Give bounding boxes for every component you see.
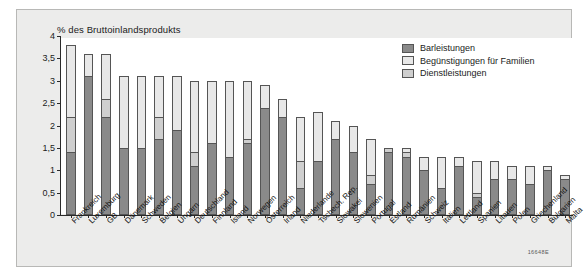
y-axis-tick-mark	[57, 58, 60, 59]
bar-segment	[331, 121, 341, 139]
bar-stack	[260, 36, 270, 215]
y-axis-tick-mark	[57, 193, 60, 194]
bar-segment	[313, 112, 323, 161]
bar-segment	[66, 117, 76, 153]
bar-segment	[296, 161, 306, 188]
bar-segment	[119, 148, 129, 215]
chart-legend: Barleistungen Begünstigungen für Familie…	[402, 43, 535, 81]
bar-segment	[225, 81, 235, 157]
bar-segment	[101, 99, 111, 117]
bar-segment	[66, 152, 76, 215]
bar-segment	[84, 76, 94, 215]
bar-segment	[260, 85, 270, 107]
bar-segment	[419, 157, 429, 170]
bar-stack	[84, 36, 94, 215]
y-axis-tick-mark	[57, 81, 60, 82]
legend-item: Begünstigungen für Familien	[402, 56, 535, 66]
bar-segment	[472, 193, 482, 197]
chart-frame: % des Bruttoinlandsprodukts 00,511,522,5…	[16, 9, 572, 267]
y-axis-line	[60, 36, 61, 216]
figure-code: 16648E	[528, 249, 549, 255]
bar-segment	[278, 99, 288, 117]
legend-swatch-barleistungen	[402, 44, 414, 53]
y-axis-tick-label: 0,5	[29, 188, 55, 198]
y-axis-tick-mark	[57, 36, 60, 37]
y-axis-title: % des Bruttoinlandsprodukts	[57, 24, 181, 35]
y-axis-tick-label: 2	[29, 121, 55, 131]
bar-segment	[172, 76, 182, 130]
y-axis-tick-mark	[57, 215, 60, 216]
bar-stack	[225, 36, 235, 215]
y-axis-tick-label: 1,5	[29, 143, 55, 153]
bar-segment	[84, 54, 94, 76]
legend-item: Dienstleistungen	[402, 68, 535, 78]
bar-stack	[313, 36, 323, 215]
bar-segment	[384, 148, 394, 152]
bar-stack	[543, 36, 553, 215]
bar-segment	[190, 81, 200, 153]
bar-segment	[472, 161, 482, 192]
bar-segment	[154, 76, 164, 116]
y-axis-tick-label: 1	[29, 165, 55, 175]
bar-segment	[243, 81, 253, 139]
bar-segment	[525, 166, 535, 184]
bar-segment	[154, 117, 164, 139]
bar-stack	[119, 36, 129, 215]
y-axis-tick-label: 0	[29, 210, 55, 220]
bar-segment	[349, 126, 359, 153]
legend-swatch-dienstleistungen	[402, 69, 414, 78]
bar-segment	[402, 148, 412, 152]
bar-stack	[154, 36, 164, 215]
bar-stack	[366, 36, 376, 215]
bar-segment	[543, 166, 553, 170]
chart-figure: % des Bruttoinlandsprodukts 00,511,522,5…	[0, 0, 588, 278]
y-axis-tick-label: 3,5	[29, 53, 55, 63]
bar-segment	[366, 139, 376, 175]
legend-label: Begünstigungen für Familien	[420, 56, 535, 66]
bar-segment	[243, 139, 253, 143]
legend-swatch-beguenstigungen	[402, 56, 414, 65]
y-axis-tick-label: 3	[29, 76, 55, 86]
y-axis-tick-mark	[57, 148, 60, 149]
bar-stack	[190, 36, 200, 215]
bar-stack	[296, 36, 306, 215]
bar-stack	[137, 36, 147, 215]
bar-stack	[207, 36, 217, 215]
y-axis-tick-mark	[57, 103, 60, 104]
y-axis-tick-mark	[57, 170, 60, 171]
bar-segment	[402, 152, 412, 156]
bar-segment	[190, 152, 200, 165]
y-axis-tick-mark	[57, 126, 60, 127]
bar-segment	[66, 45, 76, 117]
y-axis-tick-label: 2,5	[29, 98, 55, 108]
legend-label: Dienstleistungen	[420, 68, 487, 78]
bar-segment	[119, 76, 129, 148]
legend-label: Barleistungen	[420, 43, 475, 53]
bar-stack	[384, 36, 394, 215]
bar-segment	[207, 81, 217, 144]
bar-stack	[66, 36, 76, 215]
bar-stack	[278, 36, 288, 215]
bar-segment	[560, 175, 570, 179]
bar-segment	[507, 166, 517, 179]
bar-stack	[101, 36, 111, 215]
bar-segment	[366, 175, 376, 184]
bar-segment	[296, 117, 306, 162]
y-axis-tick-label: 4	[29, 31, 55, 41]
bar-segment	[437, 157, 447, 188]
legend-item: Barleistungen	[402, 43, 535, 53]
bar-segment	[454, 157, 464, 166]
bar-segment	[101, 54, 111, 99]
bar-stack	[331, 36, 341, 215]
bar-segment	[490, 161, 500, 179]
bar-stack	[172, 36, 182, 215]
bar-stack	[243, 36, 253, 215]
bar-segment	[137, 76, 147, 148]
